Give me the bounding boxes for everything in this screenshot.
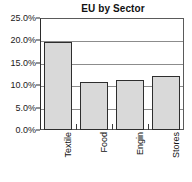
x-axis-label-textile: Textile xyxy=(63,132,73,158)
x-axis-tick-mark xyxy=(148,124,149,130)
x-axis-label-food: Food xyxy=(99,132,109,153)
y-axis-tick-label: 5.0% xyxy=(15,103,36,113)
y-axis-tick-label: 20.0% xyxy=(10,35,36,45)
bar-textile xyxy=(44,42,72,130)
x-axis-label-engin: Engin xyxy=(135,132,145,155)
y-axis-tick-label: 10.0% xyxy=(10,80,36,90)
y-axis-tick-label: 15.0% xyxy=(10,58,36,68)
y-axis-tick-label: 25.0% xyxy=(10,13,36,23)
x-axis: TextileFoodEnginStores xyxy=(40,132,184,182)
bar-engin xyxy=(116,80,144,130)
x-axis-tick-mark xyxy=(112,124,113,130)
eu-by-sector-bar-chart: EU by Sector 0.0%5.0%10.0%15.0%20.0%25.0… xyxy=(0,0,192,182)
chart-title: EU by Sector xyxy=(38,3,188,14)
bar-food xyxy=(80,82,108,130)
x-axis-tick-mark xyxy=(76,124,77,130)
bar-stores xyxy=(152,76,180,130)
y-axis: 0.0%5.0%10.0%15.0%20.0%25.0% xyxy=(0,18,36,130)
x-axis-label-stores: Stores xyxy=(171,132,181,158)
bars-group xyxy=(40,18,184,130)
y-axis-tick-label: 0.0% xyxy=(15,125,36,135)
